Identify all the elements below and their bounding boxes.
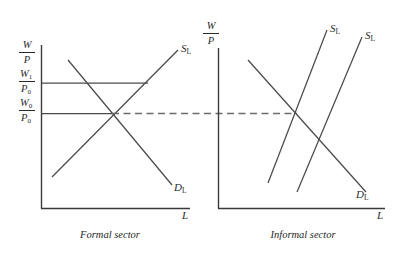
informal-supply-curve-2 bbox=[297, 37, 362, 192]
formal-w0-numerator: W0 bbox=[20, 97, 33, 110]
formal-y-axis-label-w0p0: W0 P0 bbox=[19, 97, 35, 125]
formal-y-axis-label-w1p0: W1 P0 bbox=[19, 68, 35, 96]
formal-y-axis-label-wp: W P bbox=[19, 39, 35, 65]
informal-wp-numerator: W bbox=[207, 20, 217, 31]
informal-wp-denominator: P bbox=[207, 35, 215, 46]
formal-caption: Formal sector bbox=[79, 229, 141, 240]
formal-wp-numerator: W bbox=[23, 39, 33, 50]
formal-supply-label: SL bbox=[181, 42, 192, 56]
panel-informal: W P SL SL DL L Informal sector bbox=[203, 20, 385, 240]
formal-p0-denominator: P0 bbox=[20, 83, 31, 96]
formal-demand-curve bbox=[68, 60, 172, 185]
informal-supply-curve-1 bbox=[268, 30, 327, 183]
panel-formal: W P W1 P0 W0 P0 bbox=[19, 39, 192, 240]
formal-x-axis-label: L bbox=[181, 209, 188, 221]
formal-w1-numerator: W1 bbox=[20, 68, 33, 81]
formal-wp-denominator: P bbox=[23, 54, 31, 65]
informal-supply-label-1: SL bbox=[330, 22, 341, 36]
economics-diagram: W P W1 P0 W0 P0 bbox=[0, 0, 402, 253]
informal-y-axis-label-wp: W P bbox=[203, 20, 219, 46]
formal-demand-label: DL bbox=[173, 181, 187, 195]
diagram-canvas: W P W1 P0 W0 P0 bbox=[0, 0, 402, 253]
informal-demand-curve bbox=[248, 60, 366, 192]
informal-caption: Informal sector bbox=[269, 229, 336, 240]
informal-demand-label: DL bbox=[355, 188, 369, 202]
informal-supply-label-2: SL bbox=[365, 29, 376, 43]
formal-p0-denominator-2: P0 bbox=[20, 112, 31, 125]
informal-x-axis-label: L bbox=[376, 209, 383, 221]
